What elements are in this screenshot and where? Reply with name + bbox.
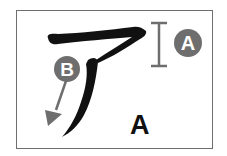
katakana-diagram: A B [0,0,227,156]
caption-letter: A [130,112,150,139]
direction-arrow-icon [45,78,67,126]
height-dimension-marker [151,23,167,66]
marker-a-label: A [181,32,195,54]
marker-b-label: B [60,59,74,80]
